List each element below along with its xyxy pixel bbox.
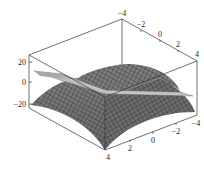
y-tick-label: 4 [106, 153, 110, 162]
y-tick-label: −2 [172, 127, 181, 136]
y-tick-label: 0 [151, 136, 155, 145]
y-tick-label: −4 [192, 119, 201, 128]
x-axis: −4 −2 0 2 4 [118, 9, 199, 59]
z-tick-label: 20 [18, 58, 26, 67]
x-tick-label: 0 [158, 30, 162, 39]
z-tick-label: −20 [13, 100, 26, 109]
z-tick-label: 0 [22, 78, 26, 87]
x-tick-label: 4 [195, 50, 199, 59]
x-tick-label: 2 [176, 40, 180, 49]
x-tick-label: −2 [137, 20, 146, 29]
x-tick-label: −4 [118, 9, 127, 18]
surface-plot: 20 0 −20 −4 −2 0 2 4 4 2 0 −2 −4 [0, 0, 204, 171]
y-tick-label: 2 [128, 144, 132, 153]
